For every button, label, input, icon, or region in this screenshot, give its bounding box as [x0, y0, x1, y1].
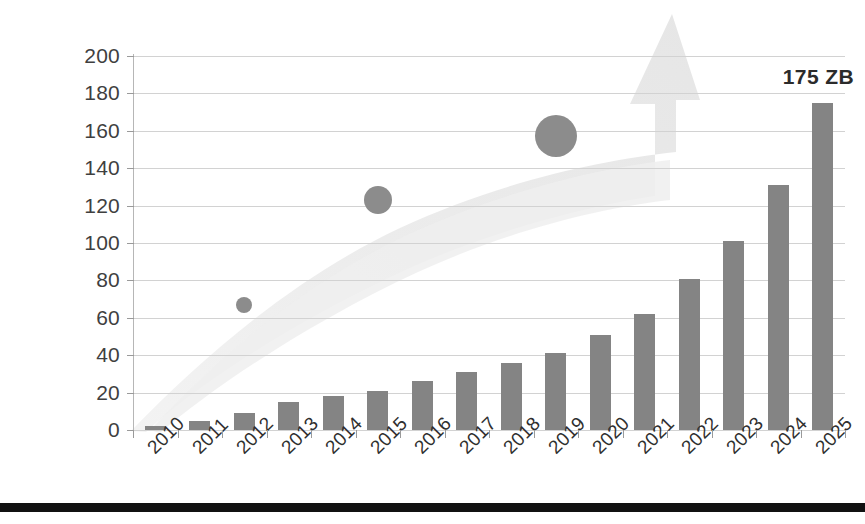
- x-tick-mark: [222, 430, 223, 438]
- y-tick-label: 40: [40, 344, 120, 365]
- y-tick-label: 20: [40, 382, 120, 403]
- value-annotation: 175 ZB: [783, 65, 854, 89]
- y-tick-label: 80: [40, 269, 120, 290]
- y-tick-label: 120: [40, 195, 120, 216]
- x-tick-mark: [178, 430, 179, 438]
- y-tick-label: 200: [40, 45, 120, 66]
- bars-layer: [133, 56, 845, 430]
- growth-marker-circle: [364, 186, 392, 214]
- x-tick-mark: [267, 430, 268, 438]
- bar: [768, 185, 789, 430]
- x-tick-mark: [356, 430, 357, 438]
- y-tick-label: 180: [40, 82, 120, 103]
- bar: [812, 103, 833, 430]
- x-tick-mark: [133, 430, 134, 438]
- bar: [723, 241, 744, 430]
- x-tick-mark: [578, 430, 579, 438]
- y-tick-label: 160: [40, 120, 120, 141]
- x-tick-mark: [845, 430, 846, 438]
- bar: [501, 363, 522, 430]
- bar: [590, 335, 611, 430]
- y-tick-label: 140: [40, 157, 120, 178]
- x-tick-mark: [756, 430, 757, 438]
- x-tick-mark: [712, 430, 713, 438]
- x-tick-mark: [311, 430, 312, 438]
- y-tick-label: 0: [40, 419, 120, 440]
- bar: [679, 279, 700, 430]
- bar: [634, 314, 655, 430]
- x-tick-mark: [667, 430, 668, 438]
- x-tick-mark: [534, 430, 535, 438]
- growth-marker-circle: [535, 115, 577, 157]
- bar: [545, 353, 566, 430]
- x-tick-mark: [400, 430, 401, 438]
- bar: [456, 372, 477, 430]
- bottom-divider: [0, 503, 865, 512]
- x-tick-mark: [801, 430, 802, 438]
- x-tick-mark: [489, 430, 490, 438]
- x-tick-mark: [623, 430, 624, 438]
- growth-marker-circle: [236, 297, 252, 313]
- y-tick-label: 60: [40, 307, 120, 328]
- chart-container: Zetabytes 200180160140120100806040200 20…: [0, 0, 865, 524]
- y-tick-label: 100: [40, 232, 120, 253]
- x-tick-mark: [445, 430, 446, 438]
